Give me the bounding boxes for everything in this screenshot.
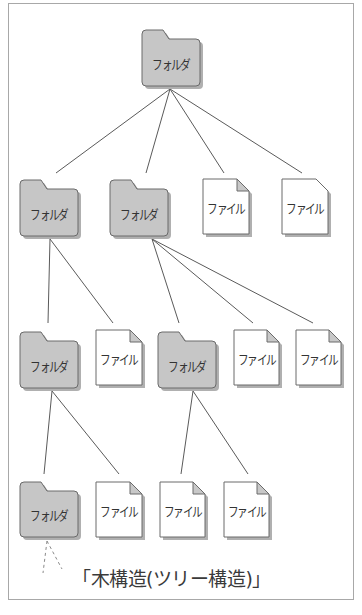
file-icon: [296, 330, 344, 388]
edge-l2-folder-a-to-l3-folder-a: [48, 239, 50, 323]
file-icon: [234, 330, 282, 388]
edge-l3-folder-a-to-l4-folder-a: [44, 391, 52, 474]
edge-l3-folder-b-to-l4-file-c: [193, 391, 248, 474]
file-icon: [282, 179, 331, 237]
edge-l2-folder-b-to-l3-file-b: [152, 239, 253, 323]
file-icon: [203, 179, 252, 237]
edge-root-to-l2-file-a: [170, 89, 224, 173]
edge-l2-folder-a-to-l3-file-a: [50, 239, 113, 323]
folder-icon: [110, 180, 171, 239]
edge-l2-folder-b-to-l3-folder-b: [152, 239, 179, 323]
edge-l3-folder-b-to-l4-file-b: [181, 391, 193, 474]
continuation-edge: [43, 541, 47, 573]
continuation-edge: [47, 541, 62, 569]
edge-root-to-l2-file-b: [170, 89, 302, 173]
edge-root-to-l2-folder-a: [56, 89, 170, 173]
folder-icon: [20, 332, 81, 391]
folder-icon: [20, 482, 81, 540]
edge-l3-folder-a-to-l4-file-a: [52, 391, 119, 474]
diagram-caption: 「木構造(ツリー構造)」: [72, 564, 296, 591]
file-icon: [224, 482, 272, 540]
folder-icon: [142, 30, 203, 89]
file-icon: [96, 330, 145, 388]
edge-l2-folder-b-to-l3-file-c: [152, 239, 313, 323]
edge-root-to-l2-folder-b: [146, 89, 170, 173]
file-icon: [96, 482, 145, 540]
tree-diagram: [0, 0, 362, 615]
folder-icon: [158, 332, 219, 391]
folder-icon: [20, 180, 81, 239]
file-icon: [160, 482, 208, 540]
